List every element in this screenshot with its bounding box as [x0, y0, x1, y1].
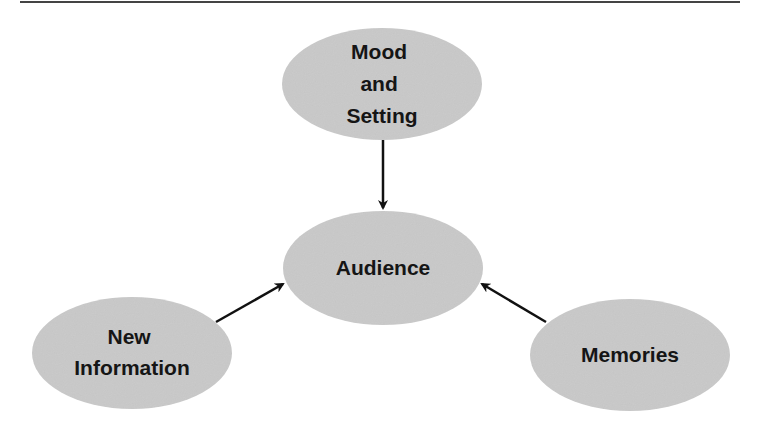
label-line: Information [74, 356, 190, 379]
arrow-new-information-to-audience [216, 284, 283, 322]
label-line: Audience [336, 256, 431, 279]
node-new-information: New Information [32, 297, 232, 409]
influence-diagram: Mood and Setting Audience New Informatio… [0, 0, 761, 424]
arrow-memories-to-audience [482, 284, 546, 322]
node-mood-and-setting: Mood and Setting [282, 28, 482, 140]
label-line: New [107, 325, 151, 348]
node-label: Audience [336, 256, 431, 279]
label-line: and [360, 72, 397, 95]
node-ellipse [32, 297, 232, 409]
node-memories: Memories [530, 299, 730, 411]
label-line: Mood [351, 40, 407, 63]
node-audience: Audience [283, 211, 483, 325]
node-label: Memories [581, 343, 679, 366]
label-line: Memories [581, 343, 679, 366]
label-line: Setting [346, 104, 417, 127]
